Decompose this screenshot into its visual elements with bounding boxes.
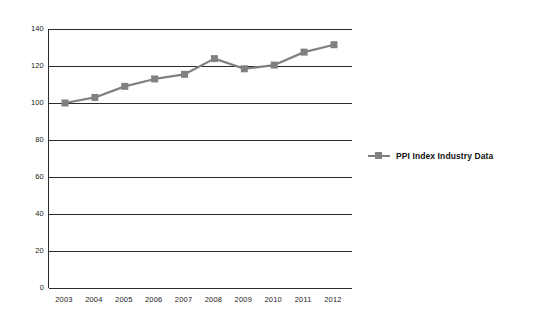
data-point-marker (91, 94, 98, 101)
x-tick-label: 2010 (264, 296, 282, 304)
x-tick-label: 2005 (115, 296, 133, 304)
y-axis: 020406080100120140 (0, 29, 44, 288)
x-tick-label: 2006 (145, 296, 163, 304)
x-tick-label: 2011 (295, 296, 312, 304)
y-tick-label: 0 (4, 284, 44, 292)
series-line (65, 45, 334, 103)
y-tick-label: 20 (4, 247, 44, 255)
data-point-marker (241, 65, 248, 72)
y-tick-label: 140 (4, 25, 44, 33)
data-point-marker (271, 62, 278, 69)
y-tick-label: 60 (4, 173, 44, 181)
legend-item-label: PPI Index Industry Data (396, 151, 493, 161)
x-tick-label: 2003 (55, 296, 73, 304)
x-tick-label: 2007 (175, 296, 193, 304)
series-ppi-index-industry-data (49, 29, 353, 288)
y-tick-label: 80 (4, 136, 44, 144)
x-tick-label: 2009 (235, 296, 253, 304)
data-point-marker (181, 71, 188, 78)
x-tick-label: 2004 (85, 296, 103, 304)
data-point-marker (331, 41, 338, 48)
x-tick-label: 2008 (205, 296, 223, 304)
chart-legend: PPI Index Industry Data (368, 150, 493, 161)
x-axis: 2003200420052006200720082009201020112012 (48, 296, 352, 310)
x-tick-label: 2012 (324, 296, 342, 304)
legend-marker-icon (368, 150, 390, 161)
data-point-marker (151, 75, 158, 82)
data-point-marker (211, 55, 218, 62)
gridline-0 (49, 288, 352, 289)
chart-page: 020406080100120140 200320042005200620072… (0, 0, 535, 327)
data-point-marker (62, 100, 69, 107)
y-tick-label: 40 (4, 210, 44, 218)
data-point-marker (301, 49, 308, 56)
data-point-marker (121, 83, 128, 90)
plot-area (48, 29, 352, 288)
y-tick-label: 100 (4, 99, 44, 107)
y-tick-label: 120 (4, 62, 44, 70)
